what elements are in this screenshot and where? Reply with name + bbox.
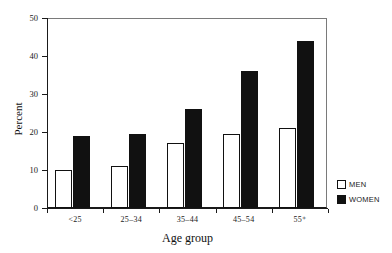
bar-men-3 <box>223 134 240 208</box>
x-axis-tick-label: 45–54 <box>233 215 255 224</box>
x-axis-title: Age group <box>47 231 328 246</box>
y-axis-tick-label: 50 <box>16 13 38 23</box>
x-axis-tick <box>216 209 217 213</box>
y-axis-line <box>47 18 48 209</box>
bar-face <box>55 170 72 208</box>
x-axis-tick <box>328 209 329 213</box>
bar-men-2 <box>167 143 184 208</box>
bar-men-1 <box>111 166 128 208</box>
bar-women-0 <box>73 136 90 208</box>
x-axis-tick-label: 35–44 <box>177 215 199 224</box>
legend-item-men: MEN <box>337 180 380 189</box>
x-axis-tick <box>103 209 104 213</box>
legend: MENWOMEN <box>337 180 380 210</box>
y-axis-tick <box>42 18 47 19</box>
bar-women-1 <box>129 134 146 208</box>
bar-face <box>241 71 258 208</box>
bar-face <box>279 128 296 208</box>
y-axis-tick-label: 40 <box>16 51 38 61</box>
bar-face <box>167 143 184 208</box>
legend-swatch-icon <box>337 180 346 189</box>
bar-face <box>111 166 128 208</box>
y-axis-tick <box>42 56 47 57</box>
x-axis-tick <box>159 209 160 213</box>
y-axis-tick <box>42 132 47 133</box>
x-axis-tick-label: <25 <box>68 215 81 224</box>
bar-face <box>297 41 314 208</box>
x-axis-tick <box>47 209 48 213</box>
bar-men-0 <box>55 170 72 208</box>
legend-label: MEN <box>349 180 366 189</box>
x-axis-tick <box>272 209 273 213</box>
y-axis-tick-label: 0 <box>16 203 38 213</box>
x-axis-line <box>47 208 328 209</box>
y-axis-tick <box>42 94 47 95</box>
legend-label: WOMEN <box>349 195 380 204</box>
bar-face <box>73 136 90 208</box>
bar-men-4 <box>279 128 296 208</box>
y-axis-title: Percent <box>12 79 24 159</box>
bar-chart: 01020304050 Percent <2525–3435–4445–5455… <box>0 0 392 253</box>
bar-women-4 <box>297 41 314 208</box>
x-axis-tick-label: 55⁺ <box>293 215 306 224</box>
bar-women-2 <box>185 109 202 208</box>
x-axis-tick-label: 25–34 <box>121 215 143 224</box>
bar-face <box>223 134 240 208</box>
legend-swatch-icon <box>337 195 346 204</box>
legend-item-women: WOMEN <box>337 195 380 204</box>
bar-face <box>185 109 202 208</box>
bar-face <box>129 134 146 208</box>
bar-women-3 <box>241 71 258 208</box>
y-axis-tick-label: 10 <box>16 165 38 175</box>
y-axis-tick <box>42 170 47 171</box>
